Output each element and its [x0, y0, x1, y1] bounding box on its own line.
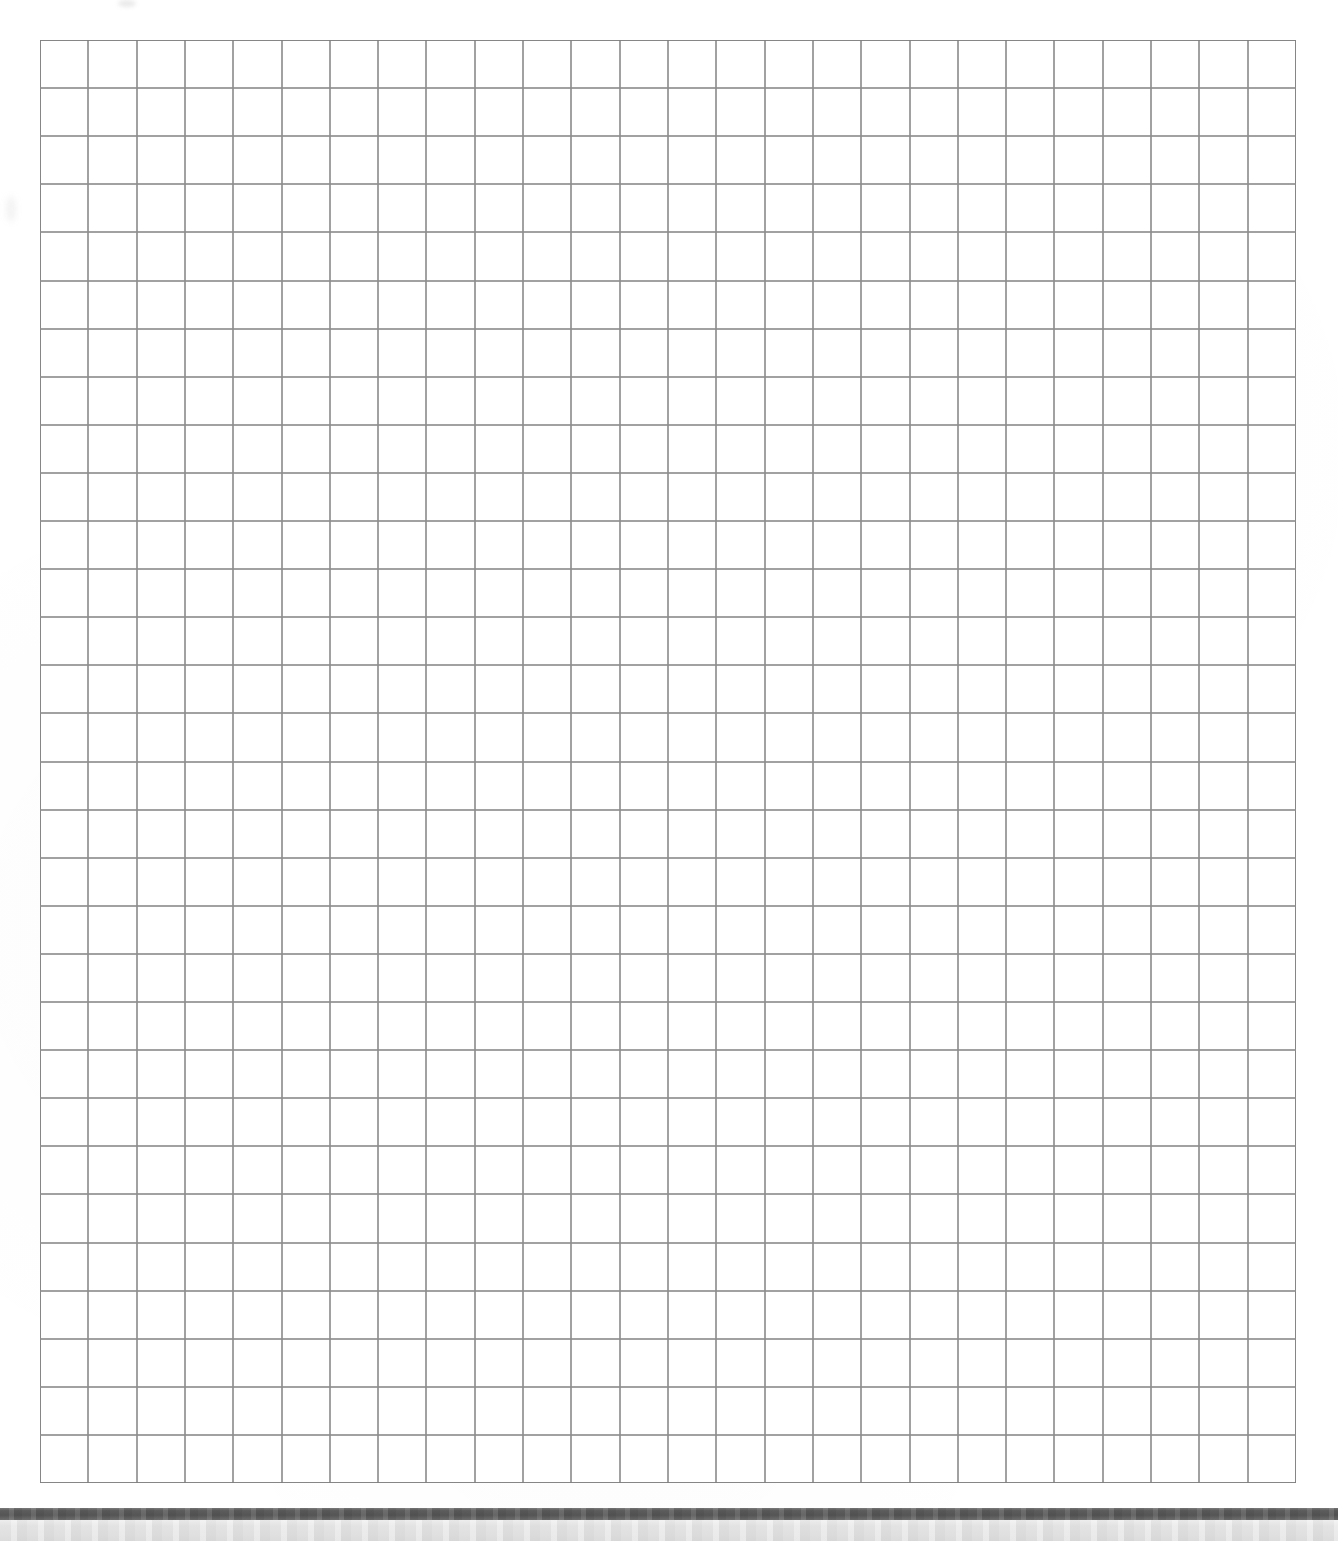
grid-lines	[40, 40, 1296, 1483]
scanned-page	[0, 0, 1338, 1541]
scanner-dark-edge-band	[0, 1508, 1338, 1520]
graph-paper-grid	[40, 40, 1296, 1483]
scan-smudge-icon	[118, 0, 136, 7]
scanner-light-edge-band	[0, 1520, 1338, 1541]
scan-smudge-icon	[6, 196, 16, 222]
